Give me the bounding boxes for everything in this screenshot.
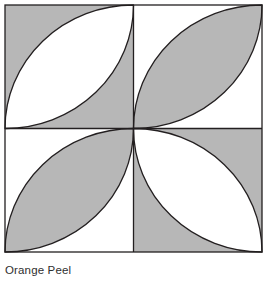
orange-peel-figure: Orange Peel bbox=[0, 0, 272, 287]
quilt-block-diagram bbox=[0, 0, 272, 262]
figure-caption: Orange Peel bbox=[5, 263, 265, 278]
